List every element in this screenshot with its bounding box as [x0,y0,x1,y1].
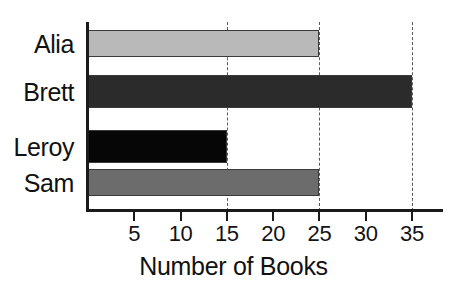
x-tick-mark-35 [411,211,413,221]
bar-chart: AliaBrettLeroySam 5101520253035 Number o… [0,0,467,293]
bar-brett [88,75,412,108]
x-tick-label-30: 30 [354,221,378,247]
x-tick-mark-15 [226,211,228,221]
x-tick-label-5: 5 [128,221,140,247]
x-tick-mark-25 [318,211,320,221]
x-axis-line [86,209,443,212]
x-tick-label-25: 25 [307,221,331,247]
x-tick-label-15: 15 [215,221,239,247]
x-axis-title: Number of Books [0,251,467,281]
x-tick-label-35: 35 [400,221,424,247]
category-label-alia: Alia [34,30,74,58]
bar-alia [88,30,319,57]
x-tick-mark-5 [133,211,135,221]
gridline-35 [412,22,413,211]
category-label-sam: Sam [24,169,74,197]
category-label-brett: Brett [23,78,74,106]
gridline-25 [319,22,320,211]
bar-sam [88,169,319,196]
bar-leroy [88,130,227,163]
x-tick-label-20: 20 [261,221,285,247]
x-tick-mark-10 [180,211,182,221]
x-tick-label-10: 10 [169,221,193,247]
x-tick-mark-30 [365,211,367,221]
category-axis-labels: AliaBrettLeroySam [0,0,82,293]
x-tick-mark-20 [272,211,274,221]
y-axis-line [86,22,89,211]
category-label-leroy: Leroy [13,133,74,161]
